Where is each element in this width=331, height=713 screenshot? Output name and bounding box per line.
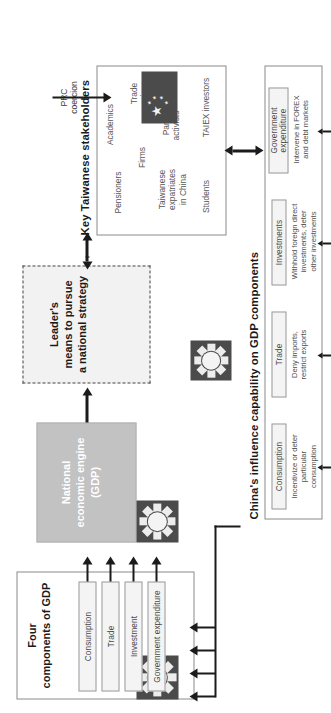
influence-feed-riser-1 <box>196 695 215 697</box>
china-feed-line-consumption <box>322 466 331 468</box>
gdp-bar-government-expenditure: Government expenditure <box>147 581 165 691</box>
china-flag-small-star-1: ★ <box>146 100 151 104</box>
influence-col-investments-label: Investments <box>274 219 283 264</box>
china-feed-head-consumption <box>317 464 322 470</box>
engine-to-leader-line <box>85 394 88 422</box>
gdp-bar-trade: Trade <box>101 581 119 691</box>
prc-to-stakeholders-line <box>52 96 104 98</box>
leader-means-title: Leader's means to pursue a national stra… <box>46 271 88 377</box>
influence-feed-trunk <box>214 525 216 697</box>
leader-stakeholders-bar <box>85 239 88 261</box>
china-feed-head-investments <box>317 240 322 246</box>
diagram-canvas: Four components of GDP Consumption Trade… <box>0 0 331 713</box>
stakeholders-influence-head-down <box>255 145 263 155</box>
influence-col-trade-box: Trade <box>271 311 286 397</box>
influence-heading: China's influence capability on GDP comp… <box>247 251 259 519</box>
bar-arrow-line-4 <box>155 563 157 581</box>
taiwan-flag-icon <box>136 500 178 542</box>
influence-feed-riser-2 <box>196 672 215 674</box>
gdp-bar-consumption: Consumption <box>78 581 96 691</box>
bar-arrow-head-2 <box>105 556 115 564</box>
bar-arrow-head-1 <box>82 556 92 564</box>
influence-col-trade-caption: Deny imports, restrict exports <box>289 309 308 399</box>
china-feed-head-government-expenditure <box>317 128 322 134</box>
bar-arrow-line-1 <box>86 563 88 581</box>
influence-feed-head-3 <box>189 645 197 655</box>
influence-col-government-expenditure-caption: Intervene in FOREX and debt markets <box>291 83 310 175</box>
influence-col-trade-label: Trade <box>274 343 283 365</box>
china-feed-line-trade <box>322 354 331 356</box>
china-feed-line-investments <box>322 242 331 244</box>
china-flag-big-star: ★ <box>149 104 162 116</box>
influence-col-consumption-box: Consumption <box>271 423 286 509</box>
stakeholder-students: Students <box>200 165 210 227</box>
influence-feed-riser-4 <box>196 626 215 628</box>
stakeholders-influence-head-up <box>224 145 232 155</box>
influence-col-consumption-label: Consumption <box>274 441 283 490</box>
influence-feed-source <box>214 525 240 527</box>
china-feed-head-trade <box>317 352 322 358</box>
bar-arrow-line-2 <box>109 563 111 581</box>
influence-feed-head-1 <box>189 691 197 701</box>
bar-arrow-head-3 <box>128 556 138 564</box>
stakeholder-pensioners: Pensioners <box>112 157 122 227</box>
national-economic-engine-title: National economic engine (GDP) <box>58 428 101 536</box>
influence-feed-head-4 <box>189 622 197 632</box>
influence-col-government-expenditure-label: Government expenditure <box>269 107 288 153</box>
gdp-bar-investment-label: Investment <box>129 615 138 656</box>
gdp-bar-investment: Investment <box>124 581 142 691</box>
influence-feed-riser-3 <box>196 649 215 651</box>
china-flag-icon: ★ ★ ★ ★ ★ <box>141 71 177 123</box>
stakeholder-taiwanese-expatriates: Taiwanese expatriates in China <box>156 157 187 221</box>
stakeholders-influence-bar <box>232 149 256 152</box>
leader-stakeholders-head-left <box>82 261 92 269</box>
gdp-bar-consumption-label: Consumption <box>83 611 92 660</box>
gdp-bar-government-expenditure-label: Government expenditure <box>152 590 161 682</box>
diagram-rotation-wrapper: Four components of GDP Consumption Trade… <box>0 0 331 713</box>
stakeholder-taiex-investors: TAIEX investors <box>200 69 210 145</box>
leader-stakeholders-head-right <box>82 232 92 240</box>
influence-col-consumption-caption: Incentivize or deter particular consumpt… <box>289 421 317 511</box>
bar-arrow-head-4 <box>151 556 161 564</box>
influence-feed-head-2 <box>189 668 197 678</box>
china-feed-line-government-expenditure <box>322 130 331 132</box>
influence-col-investments-caption: Withhold foreign direct investments, det… <box>289 193 317 289</box>
china-flag-small-star-4: ★ <box>163 100 168 104</box>
bar-arrow-line-3 <box>132 563 134 581</box>
prc-to-stakeholders-head <box>103 92 111 102</box>
china-flag-small-star-3: ★ <box>158 95 163 99</box>
four-components-title: Four components of GDP <box>24 577 52 693</box>
taiwan-flag-icon <box>190 340 231 380</box>
china-flag-small-star-2: ★ <box>151 95 156 99</box>
engine-to-leader-head <box>82 387 92 395</box>
gdp-bar-trade-label: Trade <box>106 625 115 647</box>
influence-col-government-expenditure-box: Government expenditure <box>268 87 288 173</box>
stakeholder-firms: Firms <box>136 131 146 183</box>
influence-col-investments-box: Investments <box>271 199 286 285</box>
stakeholders-heading: Key Taiwanese stakeholders <box>78 79 90 235</box>
